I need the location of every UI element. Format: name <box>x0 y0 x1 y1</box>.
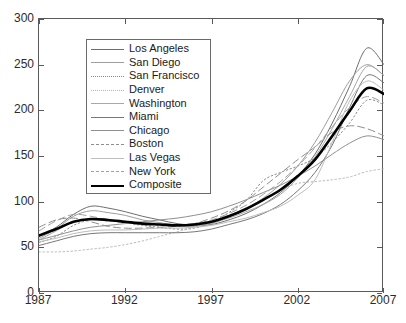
legend-line-swatch-icon <box>91 139 124 149</box>
legend-item-label: Las Vegas <box>129 152 180 163</box>
y-tick-label: 100 <box>0 195 34 207</box>
x-tick-mark-bottom <box>125 288 126 293</box>
legend-line-swatch-icon <box>91 98 124 108</box>
legend-line-swatch-icon <box>91 57 124 67</box>
x-tick-mark-bottom <box>383 288 384 293</box>
legend-item[interactable]: Chicago <box>87 124 210 138</box>
y-tick-mark <box>39 247 44 248</box>
legend-item-label: Miami <box>129 111 158 122</box>
legend-item-label: San Francisco <box>129 70 199 81</box>
legend-item[interactable]: Los Angeles <box>87 42 210 56</box>
legend-line-swatch-icon <box>91 180 124 190</box>
legend-line-swatch-icon <box>91 44 124 54</box>
x-tick-label: 2002 <box>275 294 319 306</box>
legend-item[interactable]: Composite <box>87 178 210 192</box>
x-tick-mark-top <box>125 19 126 24</box>
legend-line-swatch-icon <box>91 112 124 122</box>
legend-line-swatch-icon <box>91 153 124 163</box>
y-tick-mark-right <box>377 65 382 66</box>
x-tick-mark-top <box>212 19 213 24</box>
legend-item-label: Chicago <box>129 125 169 136</box>
legend-item-label: Washington <box>129 98 187 109</box>
legend-line-swatch-icon <box>91 71 124 81</box>
x-tick-mark-bottom <box>212 288 213 293</box>
legend-item[interactable]: San Diego <box>87 56 210 70</box>
y-tick-mark-right <box>377 247 382 248</box>
x-tick-label: 1992 <box>102 294 146 306</box>
y-tick-label: 300 <box>0 12 34 24</box>
x-tick-label: 1997 <box>189 294 233 306</box>
legend-item[interactable]: Washington <box>87 96 210 110</box>
y-tick-mark-right <box>377 156 382 157</box>
legend-item-label: San Diego <box>129 57 180 68</box>
y-tick-mark-right <box>377 110 382 111</box>
y-tick-label: 150 <box>0 149 34 161</box>
y-tick-label: 250 <box>0 58 34 70</box>
y-tick-mark <box>39 293 44 294</box>
legend-item-label: Denver <box>129 84 164 95</box>
legend-item[interactable]: Boston <box>87 137 210 151</box>
y-tick-mark-right <box>377 19 382 20</box>
legend-item-label: New York <box>129 166 175 177</box>
legend-item[interactable]: Denver <box>87 83 210 97</box>
y-tick-mark-right <box>377 293 382 294</box>
x-tick-mark-top <box>298 19 299 24</box>
y-tick-label: 50 <box>0 240 34 252</box>
legend-item-label: Composite <box>129 179 182 190</box>
chart-figure: 050100150200250300 19871992199720022007 … <box>0 0 406 323</box>
x-tick-label: 2007 <box>361 294 405 306</box>
y-tick-mark-right <box>377 202 382 203</box>
x-tick-label: 1987 <box>16 294 60 306</box>
y-tick-label: 200 <box>0 103 34 115</box>
legend-line-swatch-icon <box>91 166 124 176</box>
legend-line-swatch-icon <box>91 85 124 95</box>
y-tick-mark <box>39 156 44 157</box>
chart-legend: Los AngelesSan DiegoSan FranciscoDenverW… <box>86 39 211 194</box>
x-tick-mark-bottom <box>298 288 299 293</box>
legend-item[interactable]: Miami <box>87 110 210 124</box>
plot-area: Los AngelesSan DiegoSan FranciscoDenverW… <box>38 18 383 292</box>
y-tick-mark <box>39 65 44 66</box>
legend-item[interactable]: Las Vegas <box>87 151 210 165</box>
y-tick-mark <box>39 202 44 203</box>
y-tick-mark <box>39 110 44 111</box>
legend-item-label: Boston <box>129 138 163 149</box>
legend-item[interactable]: New York <box>87 164 210 178</box>
x-tick-mark-bottom <box>39 288 40 293</box>
legend-line-swatch-icon <box>91 125 124 135</box>
x-tick-mark-top <box>39 19 40 24</box>
legend-item[interactable]: San Francisco <box>87 69 210 83</box>
legend-item-label: Los Angeles <box>129 43 189 54</box>
x-tick-mark-top <box>383 19 384 24</box>
